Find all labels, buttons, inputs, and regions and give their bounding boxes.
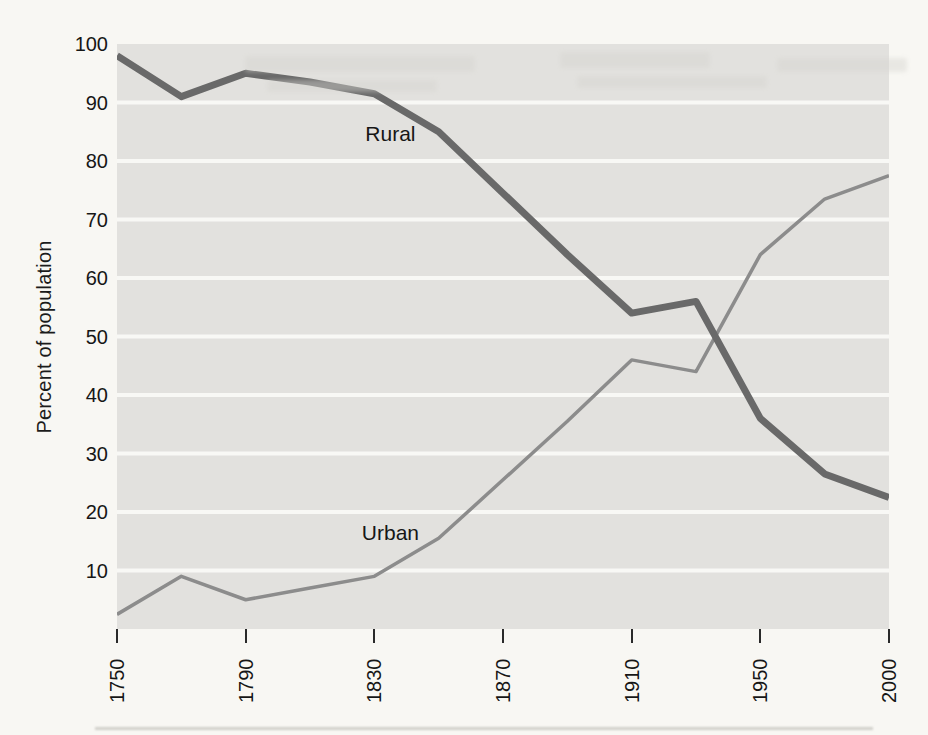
y-tick-label-80: 80 xyxy=(48,149,108,173)
x-tick-label-1750: 1750 xyxy=(107,659,127,704)
x-tick-mark-1830 xyxy=(373,629,375,643)
x-tick-label-1950: 1950 xyxy=(750,659,770,704)
y-tick-label-60: 60 xyxy=(48,266,108,290)
x-tick-label-1910: 1910 xyxy=(622,659,642,704)
x-tick-mark-1870 xyxy=(502,629,504,643)
rural-urban-population-chart: Percent of population 100908070605040302… xyxy=(0,0,928,735)
x-tick-label-2000: 2000 xyxy=(879,659,899,704)
x-tick-label-1830: 1830 xyxy=(364,659,384,704)
y-tick-label-40: 40 xyxy=(48,383,108,407)
chart-canvas: RuralUrban xyxy=(117,44,889,629)
x-tick-mark-1790 xyxy=(245,629,247,643)
y-tick-label-100: 100 xyxy=(48,32,108,56)
x-tick-label-1790: 1790 xyxy=(236,659,256,704)
y-tick-label-70: 70 xyxy=(48,208,108,232)
y-tick-label-30: 30 xyxy=(48,442,108,466)
x-tick-mark-1950 xyxy=(759,629,761,643)
scan-artifact-line xyxy=(95,727,873,730)
y-tick-label-10: 10 xyxy=(48,559,108,583)
urban-line-label: Urban xyxy=(362,521,419,544)
rural-line-label: Rural xyxy=(365,122,415,145)
y-tick-label-20: 20 xyxy=(48,500,108,524)
plot-area: RuralUrban xyxy=(117,44,889,629)
x-tick-label-1870: 1870 xyxy=(493,659,513,704)
x-tick-mark-1910 xyxy=(631,629,633,643)
x-tick-mark-1750 xyxy=(116,629,118,643)
y-tick-label-90: 90 xyxy=(48,91,108,115)
x-tick-mark-2000 xyxy=(888,629,890,643)
y-tick-label-50: 50 xyxy=(48,325,108,349)
